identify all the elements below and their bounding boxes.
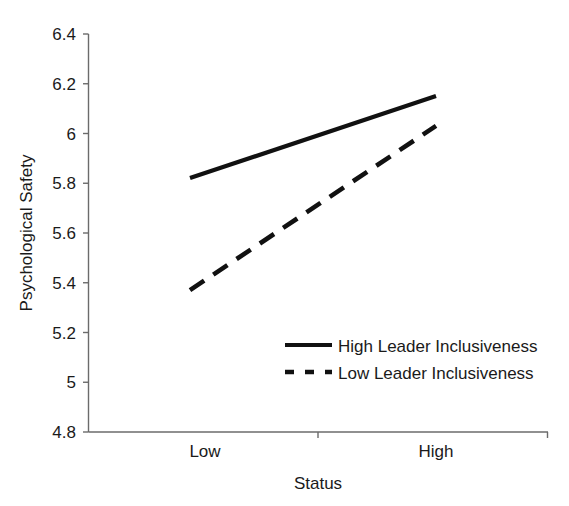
x-tick-label-low: Low	[189, 442, 221, 461]
y-tick-label-5-4: 5.4	[52, 274, 76, 293]
y-tick-label-4-8: 4.8	[52, 423, 76, 442]
line-chart-svg: 6.4 6.2 6 5.8 5.6 5.4 5.2 5 4.8 Low High…	[0, 0, 569, 506]
y-tick-label-6-2: 6.2	[52, 75, 76, 94]
y-tick-label-5-2: 5.2	[52, 324, 76, 343]
y-tick-label-6-4: 6.4	[52, 25, 76, 44]
y-tick-label-5-6: 5.6	[52, 224, 76, 243]
y-axis-title: Psychological Safety	[17, 154, 36, 311]
x-axis-title: Status	[294, 474, 342, 493]
legend-label-low-leader-inclusiveness: Low Leader Inclusiveness	[338, 364, 534, 383]
y-tick-label-5-0: 5	[67, 373, 76, 392]
y-tick-label-6-0: 6	[67, 125, 76, 144]
chart-container: 6.4 6.2 6 5.8 5.6 5.4 5.2 5 4.8 Low High…	[0, 0, 569, 506]
legend-label-high-leader-inclusiveness: High Leader Inclusiveness	[338, 337, 537, 356]
series-line-high-leader-inclusiveness	[190, 96, 436, 178]
x-tick-label-high: High	[419, 442, 454, 461]
y-tick-label-5-8: 5.8	[52, 174, 76, 193]
series-line-low-leader-inclusiveness	[190, 126, 436, 290]
legend: High Leader Inclusiveness Low Leader Inc…	[285, 337, 537, 383]
